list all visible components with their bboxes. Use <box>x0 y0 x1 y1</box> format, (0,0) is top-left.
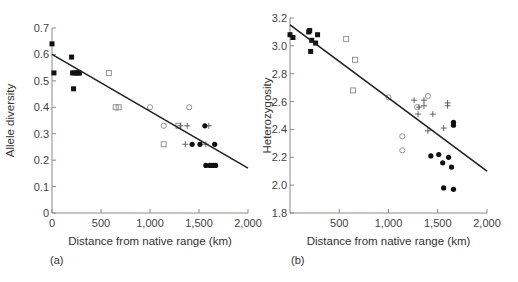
x-tick-label: 500 <box>330 217 348 229</box>
series-open-circle <box>147 105 191 129</box>
y-axis-title: Heterozygosity <box>261 77 273 153</box>
data-point-plus <box>445 103 451 109</box>
series-open-square <box>344 36 358 93</box>
panel-b-heterozygosity-chart: 1.82.02.22.42.62.83.03.25001,0001,5002,0… <box>261 12 501 266</box>
x-tick-label: 2,000 <box>234 217 262 229</box>
data-point-open-square <box>353 57 358 62</box>
data-point-plus <box>184 123 190 129</box>
data-point-filled-circle <box>197 142 202 147</box>
data-point-filled-circle <box>449 164 454 169</box>
data-point-filled-circle <box>441 185 446 190</box>
data-point-filled-circle <box>440 160 445 165</box>
y-tick-label: 0.3 <box>34 128 49 140</box>
data-point-filled-circle <box>451 187 456 192</box>
x-tick-label: 1,500 <box>185 217 213 229</box>
data-point-filled-square <box>51 70 56 75</box>
data-point-filled-circle <box>202 123 207 128</box>
data-point-filled-square <box>307 28 312 33</box>
data-point-filled-circle <box>212 142 217 147</box>
y-tick-label: 2.2 <box>272 151 287 163</box>
y-tick-label: 0.1 <box>34 181 49 193</box>
panel-label: (a) <box>50 254 63 266</box>
y-tick-label: 0.6 <box>34 48 49 60</box>
data-point-open-circle <box>187 105 192 110</box>
data-point-filled-square <box>69 55 74 60</box>
data-point-filled-circle <box>213 163 218 168</box>
y-tick-label: 2.8 <box>272 68 287 80</box>
y-tick-label: 0.5 <box>34 75 49 87</box>
y-tick-label: 2.6 <box>272 96 287 108</box>
data-point-open-square <box>161 142 166 147</box>
y-tick-label: 2.4 <box>272 123 287 135</box>
figure: 00.10.20.30.40.50.60.705001,0001,5002,00… <box>0 0 518 282</box>
data-point-filled-square <box>290 35 295 40</box>
series-plus <box>411 97 450 134</box>
y-tick-label: 0.4 <box>34 101 49 113</box>
data-point-open-circle <box>400 148 405 153</box>
series-open-square <box>106 70 181 146</box>
data-point-plus <box>182 141 188 147</box>
x-tick-label: 1,000 <box>136 217 164 229</box>
data-point-plus <box>441 125 447 131</box>
x-tick-label: 500 <box>92 217 110 229</box>
x-tick-label: 1,000 <box>375 217 403 229</box>
panel-a-allele-diversity-chart: 00.10.20.30.40.50.60.705001,0001,5002,00… <box>4 22 262 266</box>
data-point-filled-circle <box>428 153 433 158</box>
data-point-plus <box>421 103 427 109</box>
panel-label: (b) <box>291 254 304 266</box>
data-point-plus <box>430 111 436 117</box>
y-tick-label: 0.2 <box>34 154 49 166</box>
y-tick-label: 3.0 <box>272 40 287 52</box>
data-point-open-square <box>351 88 356 93</box>
data-point-plus <box>411 97 417 103</box>
data-point-filled-square <box>308 49 313 54</box>
x-tick-label: 2,000 <box>473 217 501 229</box>
data-point-filled-square <box>50 41 55 46</box>
data-point-filled-circle <box>190 142 195 147</box>
data-point-open-circle <box>400 134 405 139</box>
y-tick-label: 1.8 <box>272 207 287 219</box>
data-point-open-square <box>344 36 349 41</box>
x-axis-title: Distance from native range (km) <box>68 235 232 247</box>
data-point-filled-circle <box>446 155 451 160</box>
data-point-plus <box>415 111 421 117</box>
regression-line <box>290 25 487 171</box>
x-axis-title: Distance from native range (km) <box>307 235 471 247</box>
data-point-open-square <box>106 70 111 75</box>
x-tick-label: 1,500 <box>424 217 452 229</box>
data-point-filled-square <box>315 32 320 37</box>
y-axis-title: Allele diversity <box>4 84 16 158</box>
data-point-plus <box>416 104 422 110</box>
series-filled-square <box>288 28 321 54</box>
data-point-open-circle <box>425 93 430 98</box>
data-point-filled-square <box>71 86 76 91</box>
data-point-open-circle <box>147 105 152 110</box>
data-point-filled-circle <box>436 152 441 157</box>
y-tick-label: 3.2 <box>272 12 287 24</box>
series-filled-square <box>50 41 82 91</box>
x-tick-label: 0 <box>49 217 55 229</box>
data-point-filled-circle <box>451 123 456 128</box>
y-tick-label: 2.0 <box>272 179 287 191</box>
series-filled-circle <box>190 123 219 168</box>
regression-line <box>52 54 248 168</box>
data-point-open-circle <box>161 123 166 128</box>
y-tick-label: 0.7 <box>34 22 49 34</box>
